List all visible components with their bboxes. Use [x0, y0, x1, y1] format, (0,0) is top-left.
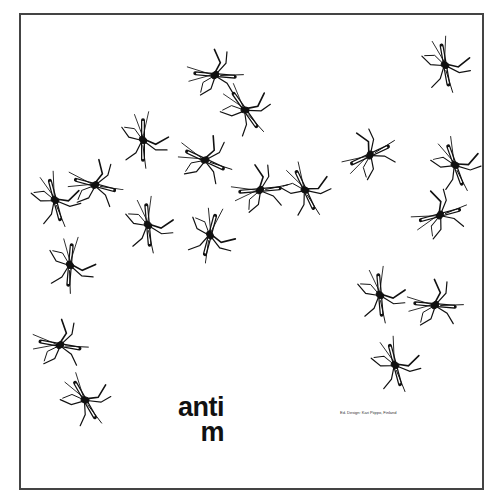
poster-title: anti m: [178, 395, 224, 445]
title-line-2: m: [178, 420, 224, 445]
credit-text: Ed. Design: Kari Piippo, Finland: [340, 410, 396, 415]
